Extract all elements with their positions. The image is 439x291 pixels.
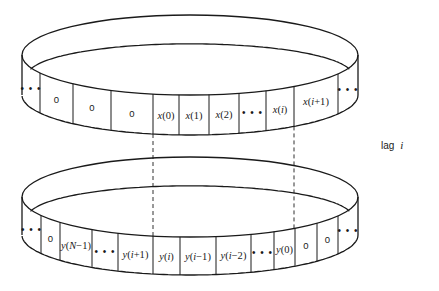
ellipsis-cell: • • • [337, 84, 358, 95]
buffer-cell: 0 [129, 108, 134, 119]
buffer-cell: y(0) [275, 244, 293, 256]
buffer-cell: y(i−2) [220, 250, 247, 262]
ellipsis-cell: • • • [20, 83, 41, 94]
buffer-cell: x(i+1) [302, 96, 329, 108]
top-ring: • • •000x(0)x(1)x(2)• • •x(i)x(i+1)• • • [20, 15, 358, 135]
buffer-cell: y(i+1) [122, 249, 149, 261]
ellipsis-cell: • • • [21, 224, 42, 235]
ellipsis-cell: • • • [337, 225, 358, 236]
alignment-lines [153, 126, 294, 236]
buffer-cell: x(2) [215, 109, 233, 121]
circular-buffer-diagram: • • •000x(0)x(1)x(2)• • •x(i)x(i+1)• • •… [0, 0, 439, 291]
buffer-cell: 0 [325, 234, 330, 245]
ellipsis-cell: • • • [252, 247, 273, 258]
lag-label-prefix: lag [381, 140, 394, 151]
buffer-cell: x(i) [272, 104, 288, 116]
buffer-cell: y(N−1) [60, 240, 91, 252]
ring-inner-edge [31, 44, 350, 70]
buffer-cell: y(i−1) [184, 251, 211, 263]
ring-top-edge [22, 15, 358, 95]
buffer-cell: 0 [54, 94, 59, 105]
ellipsis-cell: • • • [242, 107, 263, 118]
ellipsis-cell: • • • [94, 246, 115, 257]
lag-label-variable: i [400, 139, 403, 151]
ring-top-edge [22, 157, 358, 237]
buffer-cell: 0 [48, 233, 53, 244]
lag-label: lag i [381, 139, 403, 151]
buffer-cell: 0 [89, 102, 94, 113]
buffer-cell: x(1) [185, 110, 203, 122]
buffer-cell: 0 [303, 240, 308, 251]
buffer-cell: x(0) [157, 110, 175, 122]
bottom-ring: • • •0y(N−1)• • •y(i+1)y(i)y(i−1)y(i−2)•… [21, 157, 359, 275]
buffer-cell: y(i) [158, 251, 174, 263]
ring-inner-edge [31, 186, 350, 212]
